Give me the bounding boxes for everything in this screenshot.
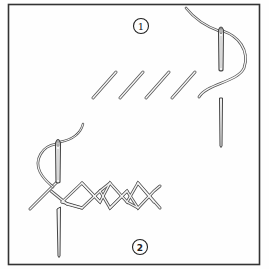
needle-2-tip (57, 207, 61, 258)
step-1-label: 1 (138, 21, 144, 32)
diagonal-stitch (146, 72, 169, 98)
needle-2 (56, 140, 61, 184)
diagonal-stitches (93, 72, 195, 98)
diagonal-stitch (120, 72, 143, 98)
diagonal-stitch (93, 72, 116, 98)
panel-step-2: 2 (30, 124, 160, 258)
diagonal-stitch (172, 72, 195, 98)
diagram-svg: 1 (0, 0, 269, 269)
step-2-badge: 2 (133, 240, 148, 255)
needle-1-tip (220, 98, 223, 148)
needle-eye (57, 141, 59, 147)
needle-eye (220, 28, 222, 34)
herringbone-stitches (30, 182, 160, 209)
stitch-diagram: 1 (0, 0, 269, 269)
step-1-badge: 1 (134, 19, 149, 34)
thread-1 (186, 8, 246, 97)
needle-1 (219, 27, 224, 71)
panel-step-1: 1 (93, 8, 246, 148)
step-2-label: 2 (137, 243, 143, 253)
